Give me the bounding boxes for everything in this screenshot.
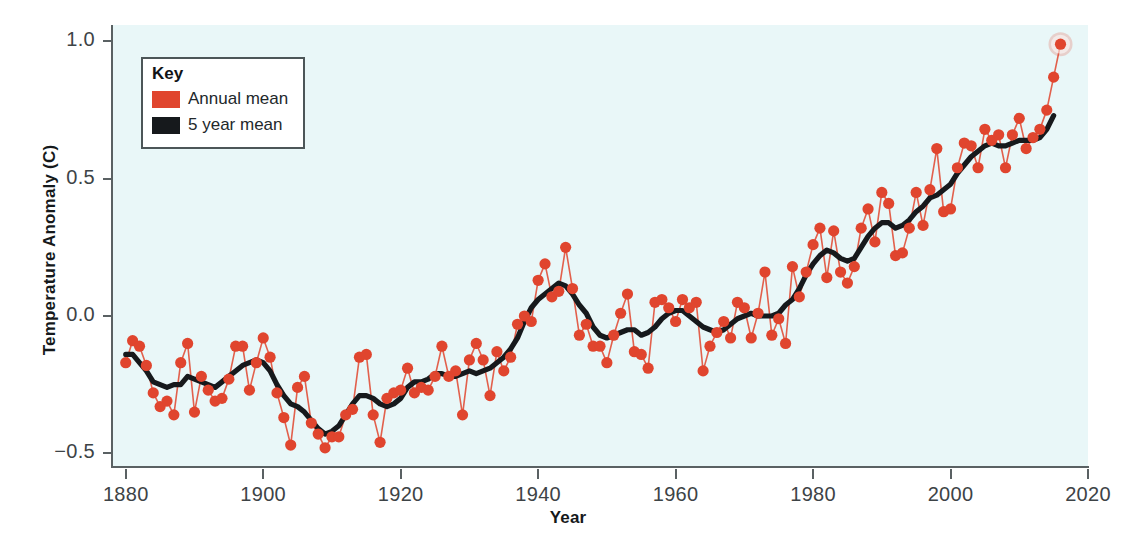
data-point — [746, 332, 757, 343]
data-point — [725, 332, 736, 343]
data-point — [216, 393, 227, 404]
data-point — [423, 385, 434, 396]
data-point — [1000, 162, 1011, 173]
data-point — [264, 352, 275, 363]
data-point — [594, 341, 605, 352]
x-tick-label: 1900 — [218, 483, 308, 506]
x-tick-label: 2020 — [1043, 483, 1133, 506]
x-axis-line — [111, 466, 1089, 468]
temperature-anomaly-chart: −0.50.00.51.0 18801900192019401960198020… — [0, 0, 1136, 551]
data-point — [333, 431, 344, 442]
data-point — [505, 352, 516, 363]
data-point — [924, 184, 935, 195]
data-point — [966, 140, 977, 151]
data-point — [622, 288, 633, 299]
data-point — [1007, 129, 1018, 140]
data-point — [271, 387, 282, 398]
x-tick-mark — [675, 469, 677, 479]
data-point — [347, 404, 358, 415]
data-point — [574, 330, 585, 341]
data-point — [292, 382, 303, 393]
data-point — [849, 261, 860, 272]
data-point — [615, 308, 626, 319]
data-point — [945, 203, 956, 214]
data-point — [1048, 72, 1059, 83]
data-point — [952, 162, 963, 173]
data-point — [1021, 143, 1032, 154]
data-point — [1014, 113, 1025, 124]
data-point — [278, 412, 289, 423]
x-tick-mark — [400, 469, 402, 479]
data-point — [842, 277, 853, 288]
legend-title: Key — [152, 64, 303, 84]
data-point — [196, 371, 207, 382]
data-point — [869, 236, 880, 247]
data-point — [189, 406, 200, 417]
legend-label-5-year-mean: 5 year mean — [188, 115, 283, 135]
data-point — [904, 223, 915, 234]
y-tick-label: 1.0 — [33, 28, 95, 51]
x-tick-mark — [1087, 469, 1089, 479]
data-point — [794, 291, 805, 302]
data-point — [876, 187, 887, 198]
data-point — [766, 330, 777, 341]
data-point — [773, 313, 784, 324]
x-tick-mark — [262, 469, 264, 479]
data-point — [752, 308, 763, 319]
data-point — [801, 266, 812, 277]
data-point — [436, 341, 447, 352]
data-point — [313, 428, 324, 439]
data-point — [759, 266, 770, 277]
data-point — [306, 417, 317, 428]
data-point — [464, 354, 475, 365]
data-point — [539, 258, 550, 269]
data-point — [691, 297, 702, 308]
data-point — [237, 341, 248, 352]
x-tick-label: 1940 — [493, 483, 583, 506]
data-point — [402, 363, 413, 374]
data-point — [835, 266, 846, 277]
data-point — [567, 283, 578, 294]
data-point — [821, 272, 832, 283]
data-point — [670, 316, 681, 327]
data-point — [862, 203, 873, 214]
data-point — [581, 319, 592, 330]
data-point — [175, 357, 186, 368]
data-point — [883, 198, 894, 209]
data-point — [285, 439, 296, 450]
data-point — [553, 286, 564, 297]
y-tick-mark — [103, 178, 112, 180]
data-point — [258, 332, 269, 343]
x-axis-label: Year — [0, 508, 1136, 528]
data-point — [704, 341, 715, 352]
y-axis-label: Temperature Anomaly (C) — [40, 50, 60, 450]
data-point — [120, 357, 131, 368]
data-point — [828, 225, 839, 236]
data-point — [787, 261, 798, 272]
data-point — [498, 365, 509, 376]
data-point — [533, 275, 544, 286]
data-point — [395, 385, 406, 396]
y-tick-mark — [103, 452, 112, 454]
data-point — [299, 371, 310, 382]
x-tick-mark — [950, 469, 952, 479]
data-point — [471, 338, 482, 349]
data-point — [450, 365, 461, 376]
data-point — [168, 409, 179, 420]
data-point — [1041, 105, 1052, 116]
data-point — [601, 357, 612, 368]
data-point — [368, 409, 379, 420]
x-tick-mark — [125, 469, 127, 479]
x-tick-mark — [812, 469, 814, 479]
legend-label-annual-mean: Annual mean — [188, 89, 288, 109]
legend-item-5-year-mean: 5 year mean — [152, 112, 303, 138]
data-point — [917, 220, 928, 231]
x-tick-label: 1980 — [768, 483, 858, 506]
data-point — [636, 349, 647, 360]
x-tick-label: 1960 — [631, 483, 721, 506]
data-point — [663, 302, 674, 313]
data-point — [739, 302, 750, 313]
data-point — [457, 409, 468, 420]
data-point — [429, 371, 440, 382]
data-point — [979, 124, 990, 135]
